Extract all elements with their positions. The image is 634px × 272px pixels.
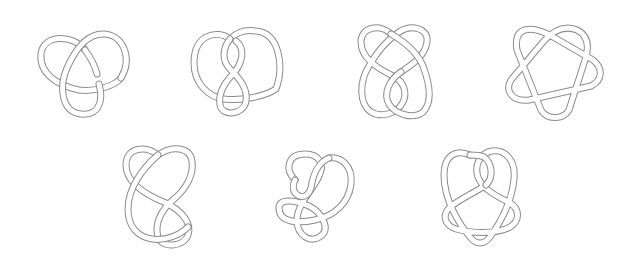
knot-five-crossing — [357, 22, 433, 122]
knot-six-crossing-a — [122, 143, 198, 252]
knot-six-crossing-c — [440, 145, 522, 247]
knot-cinquefoil — [503, 20, 605, 121]
cinquefoil-knot-drawing — [503, 20, 605, 121]
figure-eight-knot-drawing — [190, 27, 284, 118]
five-crossing-knot-drawing — [357, 22, 433, 122]
knot-figure-eight — [190, 27, 284, 118]
six-crossing-b-knot-drawing — [275, 150, 355, 247]
knot-trefoil — [37, 28, 133, 118]
six-crossing-a-knot-drawing — [122, 143, 198, 252]
knot-six-crossing-b — [275, 150, 355, 247]
six-crossing-c-knot-drawing — [440, 145, 522, 247]
trefoil-knot-drawing — [37, 28, 133, 118]
